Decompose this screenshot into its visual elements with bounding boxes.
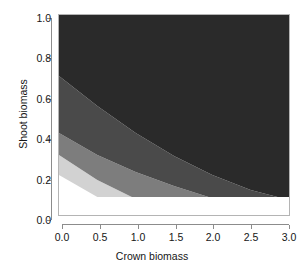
- x-tick-label-1.5: 1.5: [161, 231, 191, 243]
- x-tick-label-2.5: 2.5: [236, 231, 266, 243]
- x-tick-2.0: [213, 225, 214, 229]
- x-tick-0.5: [100, 225, 101, 229]
- x-tick-1.5: [176, 225, 177, 229]
- x-tick-label-3.0: 3.0: [274, 231, 304, 243]
- plot-area: [58, 14, 290, 216]
- y-axis-title: Shoot biomass: [17, 44, 29, 184]
- contour-bands-svg: [59, 15, 289, 215]
- y-tick-label-1.0: 1.0: [23, 12, 51, 24]
- x-tick-0.0: [62, 225, 63, 229]
- x-tick-label-1.0: 1.0: [123, 231, 153, 243]
- x-tick-1.0: [138, 225, 139, 229]
- x-axis-title: Crown biomass: [0, 250, 304, 262]
- x-tick-3.0: [289, 225, 290, 229]
- x-tick-label-2.0: 2.0: [198, 231, 228, 243]
- x-tick-label-0.0: 0.0: [47, 231, 77, 243]
- undefined-region: [59, 197, 289, 215]
- x-tick-2.5: [251, 225, 252, 229]
- y-axis-line: [51, 18, 52, 220]
- y-tick-label-0.0: 0.0: [23, 214, 51, 226]
- x-tick-label-0.5: 0.5: [85, 231, 115, 243]
- contour-plot-figure: 1.0 0.8 0.6 0.4 0.2 0.0 0.0 0.5 1.0 1.5 …: [0, 0, 304, 272]
